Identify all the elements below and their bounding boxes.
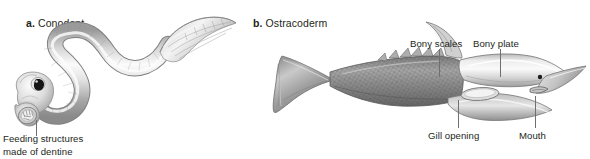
bony-scales-texture — [330, 56, 463, 106]
callout-gill-opening: Gill opening — [428, 130, 479, 141]
panel-a-title: a.Conodont — [26, 17, 84, 29]
panel-b-title-text: Ostracoderm — [266, 17, 328, 29]
ostracoderm-tail-fin — [273, 56, 334, 113]
panel-a-letter: a. — [26, 17, 35, 29]
bony-plate-leader-line — [500, 49, 501, 77]
panel-b-letter: b. — [253, 17, 263, 29]
ostracoderm-bony-plate — [459, 54, 568, 87]
callout-feeding-structures: Feeding structures made of dentine — [3, 133, 118, 158]
callout-mouth: Mouth — [519, 130, 546, 141]
callout-bony-scales: Bony scales — [410, 38, 462, 49]
callout-feeding-structures-line2: made of dentine — [3, 146, 73, 157]
ostracoderm-gill-opening — [461, 86, 500, 101]
bony-scales-leader-line — [439, 49, 440, 77]
callout-bony-plate: Bony plate — [473, 38, 519, 49]
panel-a-title-text: Conodont — [38, 17, 84, 29]
panel-b-ostracoderm: b.Ostracoderm — [250, 0, 590, 159]
ostracoderm-dorsal-scutes — [378, 47, 444, 61]
figure-conodont-ostracoderm: a.Conodont — [0, 0, 590, 159]
ostracoderm-snout — [536, 66, 586, 93]
mouth-leader-line — [535, 96, 536, 128]
panel-b-title: b.Ostracoderm — [253, 17, 327, 29]
conodont-eye — [31, 77, 45, 90]
ostracoderm-lower-lobe — [448, 93, 552, 120]
ostracoderm-scaled-trunk — [330, 56, 463, 106]
callout-feeding-structures-line1: Feeding structures — [3, 133, 83, 144]
conodont-tail-fin — [160, 17, 236, 62]
panel-a-conodont: a.Conodont — [0, 0, 250, 159]
gill-opening-leader-line — [458, 100, 459, 128]
conodont-head-group — [15, 72, 54, 126]
ostracoderm-eye — [538, 75, 542, 79]
conodont-body-group — [38, 22, 168, 117]
ostracoderm-mouth — [530, 87, 548, 93]
